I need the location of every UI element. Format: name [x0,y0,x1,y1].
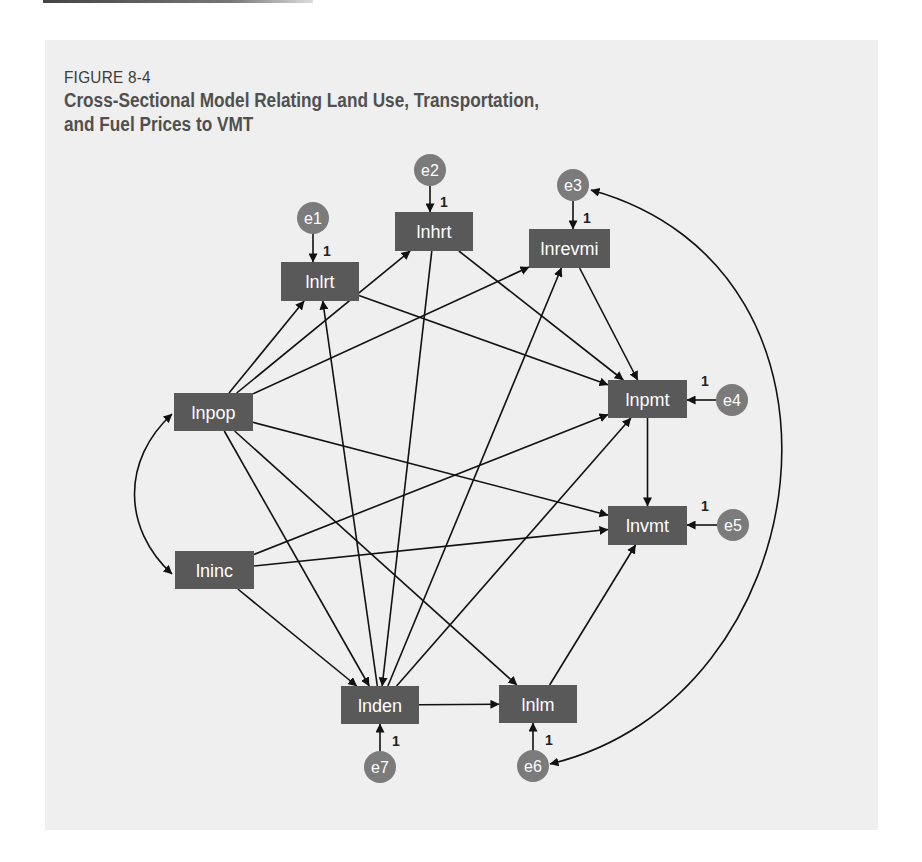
path-coefficient-e3: 1 [583,210,591,226]
error-label-e2: e2 [421,162,439,179]
covariance-layer [135,190,782,764]
edge-lninc-to-lnpmt [254,415,608,555]
variable-label-lnpmt: lnpmt [625,390,669,410]
edge-lninc-to-lnvmt [254,530,608,566]
variable-label-lnden: lnden [358,696,402,716]
variable-label-lnlm: lnlm [521,695,554,715]
path-coefficient-e6: 1 [545,732,553,748]
variable-node-lnpmt: lnpmt [608,380,687,418]
path-coefficient-e1: 1 [323,243,331,259]
error-label-e4: e4 [723,392,741,409]
error-term-e5: e51 [687,498,749,541]
edge-lnden-to-lnlrt [323,301,378,686]
path-diagram: e11e21e31e41e51e61e71 lnlrtlnhrtlnrevmil… [0,0,922,862]
error-term-e3: e31 [557,169,591,229]
path-coefficient-e7: 1 [392,733,400,749]
variable-node-lnrevmi: lnrevmi [529,229,610,268]
error-label-e3: e3 [564,177,582,194]
error-label-e6: e6 [524,758,542,775]
edge-lninc-to-lnden [238,589,357,686]
covariance-lnpop-lninc [135,414,173,574]
variable-node-lnlm: lnlm [499,685,577,723]
error-label-e1: e1 [304,210,322,227]
edge-lnden-to-lnrevmi [388,268,562,686]
error-term-e4: e41 [687,373,748,416]
variable-label-lninc: lninc [196,561,233,581]
edge-lnhrt-to-lnden [382,251,432,686]
edge-lnden-to-lnlm [419,704,499,705]
edge-lnpop-to-lnlm [235,431,517,685]
path-coefficient-e2: 1 [440,194,448,210]
error-term-e2: e21 [414,154,448,212]
error-label-e7: e7 [371,759,389,776]
variable-label-lnhrt: lnhrt [416,222,451,242]
error-term-e7: e71 [364,724,400,783]
variable-label-lnvmt: lnvmt [626,516,669,536]
path-coefficient-e5: 1 [701,498,709,514]
variable-node-lnlrt: lnlrt [281,262,359,301]
variable-label-lnpop: lnpop [191,403,235,423]
variable-label-lnrevmi: lnrevmi [540,239,598,259]
variable-node-lnpop: lnpop [174,393,253,431]
edge-lnden-to-lnpmt [397,418,631,686]
path-coefficient-e4: 1 [701,373,709,389]
error-label-e5: e5 [724,517,742,534]
covariance-e3-e6 [550,190,782,764]
variable-node-lnvmt: lnvmt [608,506,687,545]
edge-lnlrt-to-lnpmt [359,295,608,384]
variable-label-lnlrt: lnlrt [305,272,334,292]
edge-lnrevmi-to-lnpmt [580,268,638,380]
edges-layer [224,251,647,705]
variable-node-lnhrt: lnhrt [395,212,473,251]
error-term-e6: e61 [517,723,553,782]
variable-node-lninc: lninc [175,551,254,589]
error-term-e1: e11 [297,202,331,262]
variable-node-lnden: lnden [341,686,419,724]
edge-lnlm-to-lnvmt [550,545,636,685]
